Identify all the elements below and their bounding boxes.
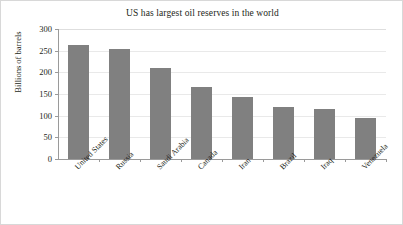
gridline bbox=[58, 94, 386, 95]
bar bbox=[68, 45, 89, 159]
y-tick-label: 300 bbox=[39, 24, 52, 34]
plot-area: 050100150200250300 United StatesRussiaSa… bbox=[58, 29, 386, 159]
y-axis-title: Billions of barrels bbox=[13, 12, 23, 112]
chart-title: US has largest oil reserves in the world bbox=[1, 8, 403, 18]
chart-figure: US has largest oil reserves in the world… bbox=[0, 0, 403, 225]
x-tick-mark bbox=[386, 159, 387, 162]
x-tick-mark bbox=[99, 159, 100, 162]
x-tick-mark bbox=[263, 159, 264, 162]
x-tick-mark bbox=[222, 159, 223, 162]
x-tick-mark bbox=[345, 159, 346, 162]
y-tick-label: 100 bbox=[39, 111, 52, 121]
y-tick-label: 150 bbox=[39, 89, 52, 99]
gridline bbox=[58, 72, 386, 73]
y-axis-line bbox=[58, 29, 59, 159]
bar bbox=[150, 68, 171, 159]
gridline bbox=[58, 29, 386, 30]
y-tick-label: 50 bbox=[44, 132, 53, 142]
bar bbox=[314, 109, 335, 159]
bar bbox=[191, 87, 212, 159]
x-tick-mark bbox=[181, 159, 182, 162]
y-tick-label: 200 bbox=[39, 67, 52, 77]
y-tick-label: 0 bbox=[48, 154, 52, 164]
bar bbox=[109, 49, 130, 160]
x-tick-mark bbox=[304, 159, 305, 162]
gridline bbox=[58, 116, 386, 117]
bar bbox=[232, 97, 253, 159]
x-tick-mark bbox=[140, 159, 141, 162]
gridline bbox=[58, 51, 386, 52]
y-tick-label: 250 bbox=[39, 46, 52, 56]
